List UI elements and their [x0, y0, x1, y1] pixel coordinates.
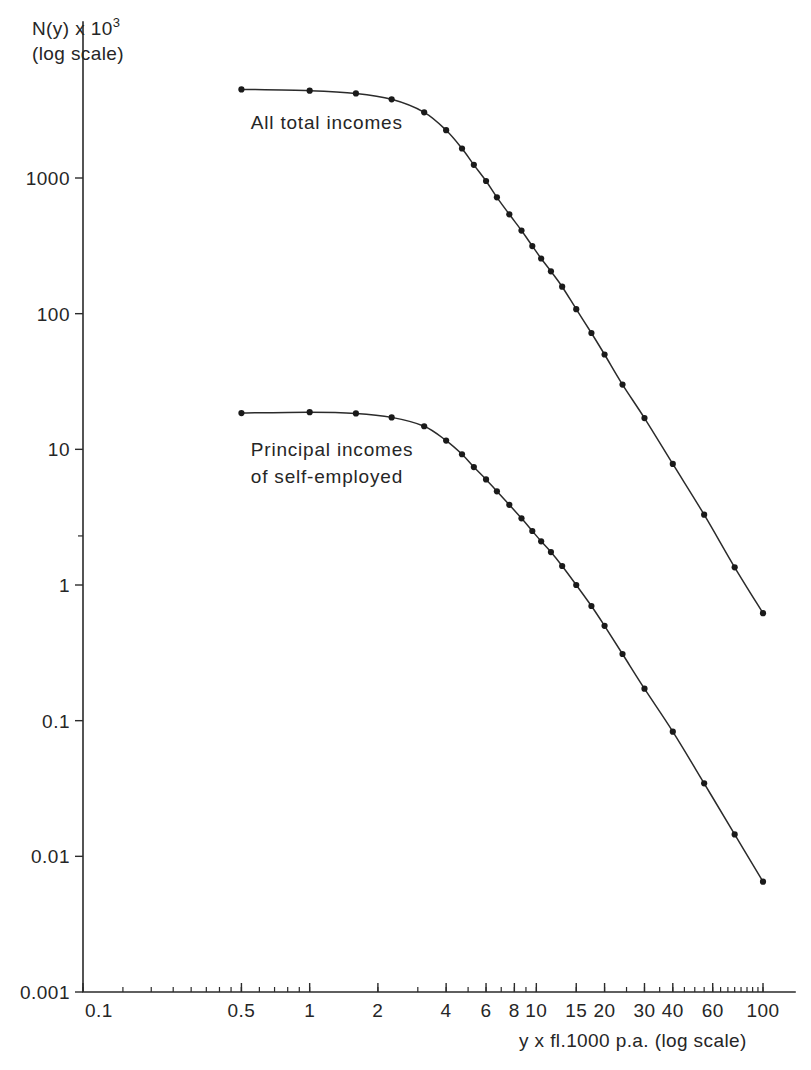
data-point-marker [573, 582, 579, 588]
data-point-marker [353, 90, 359, 96]
data-point-marker [459, 145, 465, 151]
data-point-marker [760, 610, 766, 616]
curve-label-1: All total incomes [251, 112, 403, 133]
x-tick-label: 2 [372, 1000, 383, 1021]
data-point-marker [701, 780, 707, 786]
x-tick-label: 40 [662, 1000, 684, 1021]
data-point-marker [471, 464, 477, 470]
data-point-marker [353, 410, 359, 416]
axes [83, 22, 795, 992]
y-tick-label: 1000 [26, 168, 70, 189]
y-axis-title-exponent: 3 [113, 15, 121, 30]
data-point-marker [619, 382, 625, 388]
data-point-marker [573, 306, 579, 312]
x-tick-label: 1 [304, 1000, 315, 1021]
y-axis-ticks [75, 178, 83, 992]
data-point-marker [529, 243, 535, 249]
y-tick-label: 1 [59, 575, 70, 596]
data-point-marker [518, 227, 524, 233]
data-point-marker [588, 330, 594, 336]
y-tick-label: 10 [48, 439, 70, 460]
x-tick-label: 0.5 [227, 1000, 255, 1021]
data-point-marker [641, 415, 647, 421]
x-tick-label: 10 [525, 1000, 547, 1021]
data-point-marker [389, 96, 395, 102]
data-point-marker [421, 423, 427, 429]
data-point-marker [443, 127, 449, 133]
x-tick-label: 20 [593, 1000, 615, 1021]
chart-figure: 10001001010.10.010.001 0.10.512468101520… [0, 0, 811, 1070]
data-point-marker [389, 414, 395, 420]
x-tick-label: 8 [509, 1000, 520, 1021]
data-point-marker [443, 437, 449, 443]
data-point-marker [538, 538, 544, 544]
x-tick-label: 4 [441, 1000, 452, 1021]
y-tick-label: 0.001 [20, 982, 70, 1003]
y-tick-label: 0.01 [31, 846, 70, 867]
data-point-marker [483, 476, 489, 482]
data-point-marker [238, 86, 244, 92]
x-tick-label: 30 [633, 1000, 655, 1021]
data-point-marker [529, 528, 535, 534]
y-axis-title-main: N(y) x 10 [32, 18, 113, 39]
x-axis-title: y x fl.1000 p.a. (log scale) [519, 1030, 747, 1051]
x-tick-label: 15 [565, 1000, 587, 1021]
data-point-marker [494, 194, 500, 200]
data-point-marker [538, 255, 544, 261]
data-point-marker [459, 451, 465, 457]
data-point-marker [471, 162, 477, 168]
data-point-marker [701, 512, 707, 518]
y-tick-label: 100 [37, 304, 70, 325]
curve-annotations: All total incomesPrincipal incomesof sel… [251, 112, 414, 487]
curve-label-2: Principal incomes [251, 439, 414, 460]
data-point-marker [494, 488, 500, 494]
axis-lines [83, 22, 795, 992]
y-tick-label: 0.1 [42, 711, 70, 732]
svg-text:N(y) x 103: N(y) x 103 [32, 15, 120, 39]
data-point-marker [670, 729, 676, 735]
data-point-marker [601, 623, 607, 629]
data-point-marker [506, 502, 512, 508]
data-point-marker [518, 515, 524, 521]
x-axis-tick-labels: 0.10.512468101520304060100 [85, 1000, 780, 1021]
x-tick-label: 0.1 [85, 1000, 113, 1021]
data-point-marker [506, 211, 512, 217]
x-axis-ticks [83, 983, 763, 992]
data-point-marker [760, 879, 766, 885]
data-point-marker [670, 461, 676, 467]
data-point-marker [619, 651, 625, 657]
data-point-marker [559, 563, 565, 569]
data-point-marker [548, 549, 554, 555]
series-line [241, 89, 763, 613]
data-point-marker [421, 109, 427, 115]
data-point-marker [548, 268, 554, 274]
y-axis-title-scale-note: (log scale) [32, 43, 124, 64]
income-distribution-chart: 10001001010.10.010.001 0.10.512468101520… [0, 0, 811, 1070]
series-1 [238, 86, 766, 616]
curve-label-2-line2: of self-employed [251, 466, 403, 487]
data-point-marker [307, 88, 313, 94]
y-axis-title: N(y) x 103 (log scale) [32, 15, 124, 64]
x-tick-label: 6 [481, 1000, 492, 1021]
data-point-marker [641, 686, 647, 692]
data-point-marker [307, 409, 313, 415]
x-tick-label: 60 [702, 1000, 724, 1021]
data-point-marker [732, 831, 738, 837]
data-point-marker [601, 351, 607, 357]
data-point-marker [588, 603, 594, 609]
data-point-marker [238, 410, 244, 416]
data-point-marker [483, 178, 489, 184]
data-point-marker [732, 564, 738, 570]
y-axis-tick-labels: 10001001010.10.010.001 [20, 168, 70, 1003]
data-point-marker [559, 284, 565, 290]
x-tick-label: 100 [746, 1000, 779, 1021]
